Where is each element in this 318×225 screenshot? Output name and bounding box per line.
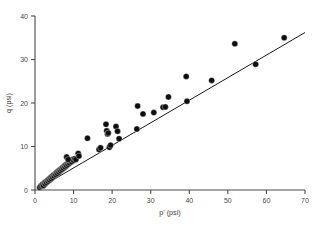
data-point [162, 104, 168, 110]
data-point [165, 94, 171, 100]
data-point [135, 103, 141, 109]
y-tick-label-40: 40 [20, 13, 28, 20]
data-point [281, 35, 287, 41]
x-tick-label-10: 10 [70, 197, 78, 204]
plot-canvas: 010203040 010203040506070 p' (psi) q (ps… [0, 0, 318, 225]
data-point [105, 130, 111, 136]
x-tick-label-20: 20 [108, 197, 116, 204]
data-point [84, 135, 90, 141]
y-axis-label: q (psi) [4, 93, 13, 113]
y-tick-label-20: 20 [20, 100, 28, 107]
data-point [151, 110, 157, 116]
data-point [98, 145, 104, 151]
x-axis-ticks: 010203040506070 [33, 190, 309, 204]
x-tick-label-60: 60 [263, 197, 271, 204]
data-point [65, 157, 71, 163]
x-tick-label-0: 0 [33, 197, 37, 204]
data-point [116, 136, 122, 142]
data-point [134, 126, 140, 132]
data-point [76, 153, 82, 159]
data-point [232, 41, 238, 47]
data-point [209, 77, 215, 83]
x-axis-label: p' (psi) [159, 208, 180, 217]
data-point [183, 73, 189, 79]
y-tick-label-30: 30 [20, 56, 28, 63]
data-point [115, 128, 121, 134]
scatter-plot-figure: 010203040 010203040506070 p' (psi) q (ps… [0, 0, 318, 225]
x-tick-label-70: 70 [301, 197, 309, 204]
x-tick-label-50: 50 [224, 197, 232, 204]
data-point [140, 111, 146, 117]
y-axis-ticks: 010203040 [20, 13, 35, 194]
x-tick-label-30: 30 [147, 197, 155, 204]
x-tick-label-40: 40 [185, 197, 193, 204]
data-point [103, 121, 109, 127]
data-point [184, 98, 190, 104]
data-point [253, 61, 259, 67]
y-tick-label-0: 0 [24, 187, 28, 194]
data-point [108, 142, 114, 148]
trend-line [39, 33, 305, 189]
y-tick-label-10: 10 [20, 143, 28, 150]
